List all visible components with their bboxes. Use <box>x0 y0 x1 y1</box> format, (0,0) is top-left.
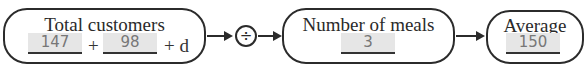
average-value: 150 <box>506 33 560 54</box>
arrow-icon <box>258 35 280 37</box>
meals-value: 3 <box>341 33 395 54</box>
customers-value-2: 98 <box>103 33 157 54</box>
customers-value-1: 147 <box>28 33 82 54</box>
plus-d-term: + d <box>164 35 189 57</box>
arrow-icon <box>207 35 231 37</box>
plus-operator-1: + <box>88 35 99 57</box>
average-box: Average 150 <box>486 10 584 64</box>
total-customers-box: Total customers 147 + 98 + d <box>3 8 206 64</box>
divide-icon: ÷ <box>235 25 257 47</box>
arrow-icon <box>456 35 483 37</box>
number-of-meals-box: Number of meals 3 <box>282 8 455 64</box>
